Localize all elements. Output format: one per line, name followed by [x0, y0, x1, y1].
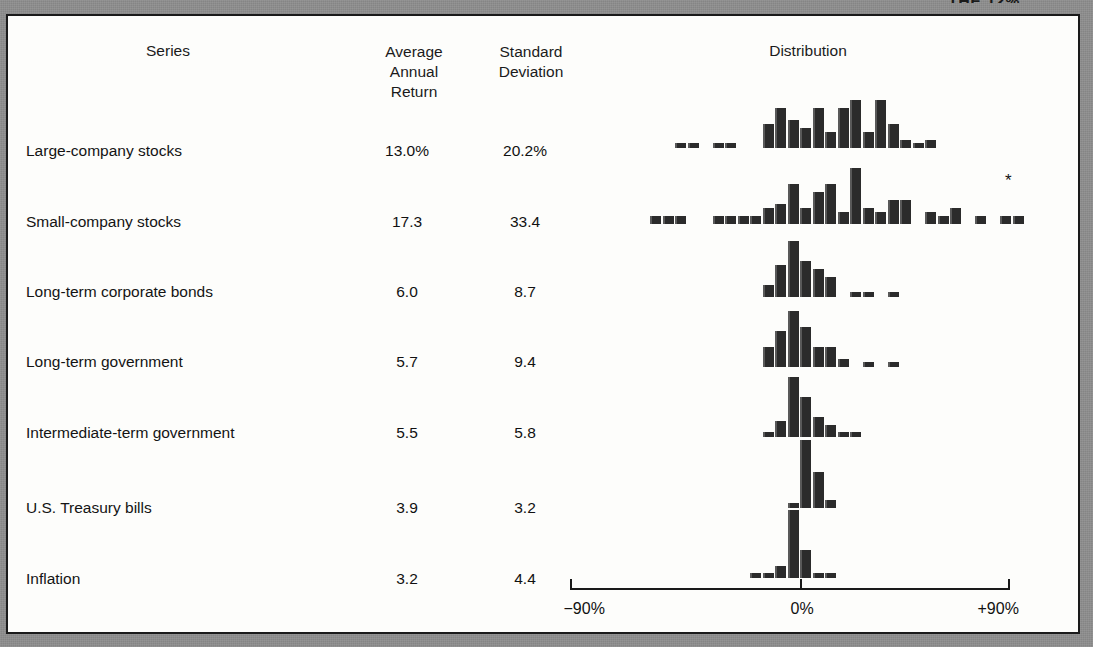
axis-tick-left	[570, 579, 572, 589]
axis-label-zero: 0%	[791, 600, 814, 618]
x-axis: −90%0%+90%	[8, 16, 1082, 636]
figure-frame: Series Average Annual Return Standard De…	[6, 14, 1080, 634]
axis-label-min: −90%	[564, 600, 605, 618]
cut-off-header-text: THE 12%	[948, 0, 1020, 3]
axis-baseline	[570, 588, 1010, 590]
axis-tick-center	[800, 579, 802, 589]
axis-label-max: +90%	[978, 600, 1019, 618]
axis-tick-right	[1008, 579, 1010, 589]
